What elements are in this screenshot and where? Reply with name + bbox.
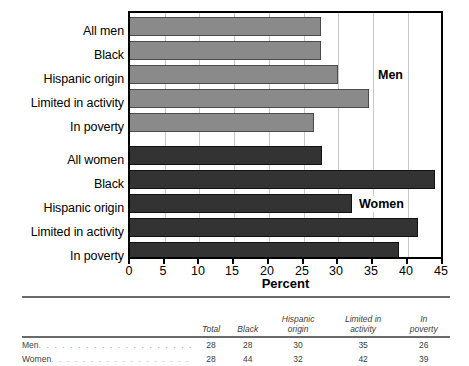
plot-area: Men Women [128,11,443,259]
cell-women-hispanic: 32 [267,351,328,365]
table-header-total-line1: Total [202,324,220,334]
y-axis-category-labels: All men Black Hispanic origin Limited in… [0,11,124,259]
y-label-all-men: All men [0,25,124,38]
cell-men-hispanic: 30 [267,337,328,351]
table-row-label-women: Women. . . . . . . . . . . . . . . . . . [22,351,194,365]
y-label-women-in-poverty: In poverty [0,250,124,263]
cell-men-black: 28 [228,337,267,351]
table-header-poverty-line2: poverty [410,324,438,334]
row-label-men-text: Men [22,340,39,350]
table-row: Women. . . . . . . . . . . . . . . . . .… [22,351,450,365]
y-label-women-black: Black [0,178,124,191]
table-row: Men. . . . . . . . . . . . . . . . . . .… [22,337,450,351]
cell-women-poverty: 39 [397,351,450,365]
bar-men-limited-in-activity [130,89,369,108]
table-header-black-line1: Black [237,324,258,334]
bar-chart-figure: All men Black Hispanic origin Limited in… [0,0,469,290]
bar-men-in-poverty [130,113,314,132]
table-header-limited-in-activity: Limited in activity [329,298,398,337]
x-axis-title: Percent [128,276,443,291]
y-label-women-hispanic-origin: Hispanic origin [0,202,124,215]
table-header-in-poverty: In poverty [397,298,450,337]
y-label-men-limited-activity: Limited in activity [0,97,124,110]
row-label-women-text: Women [22,354,51,364]
annotation-women: Women [356,196,407,212]
table-header-black: Black [228,298,267,337]
y-label-men-in-poverty: In poverty [0,121,124,134]
table-header-hispanic-origin: Hispanic origin [267,298,328,337]
table-header-limited-line2: activity [350,324,376,334]
bar-women-black [130,170,435,189]
cell-women-total: 28 [194,351,228,365]
row-leader-women: . . . . . . . . . . . . . . . . . . [51,354,190,364]
y-label-all-women: All women [0,154,124,167]
bar-women-all-women [130,146,322,165]
cell-women-black: 44 [228,351,267,365]
cell-women-limited: 42 [329,351,398,365]
table-header-total: Total [194,298,228,337]
bar-men-hispanic-origin [130,65,338,84]
bar-men-all-men [130,17,321,36]
y-label-men-hispanic-origin: Hispanic origin [0,73,124,86]
table-header-hispanic-line2: origin [288,324,309,334]
bar-women-in-poverty [130,242,399,259]
summary-data-table: Total Black Hispanic origin Limited in a… [22,296,450,362]
table-header-stub [22,298,194,337]
y-label-women-limited-activity: Limited in activity [0,226,124,239]
cell-men-total: 28 [194,337,228,351]
y-label-men-black: Black [0,49,124,62]
bar-men-black [130,41,321,60]
table-header-row: Total Black Hispanic origin Limited in a… [22,298,450,337]
cell-men-limited: 35 [329,337,398,351]
table-row-label-men: Men. . . . . . . . . . . . . . . . . . .… [22,337,194,351]
bar-women-hispanic-origin [130,194,352,213]
row-leader-men: . . . . . . . . . . . . . . . . . . . . [39,340,194,350]
cell-men-poverty: 26 [397,337,450,351]
table-header-poverty-line1: In [420,314,427,324]
table-header-hispanic-line1: Hispanic [282,314,315,324]
table-header-limited-line1: Limited in [345,314,381,324]
bar-women-limited-in-activity [130,218,418,237]
annotation-men: Men [375,67,406,83]
